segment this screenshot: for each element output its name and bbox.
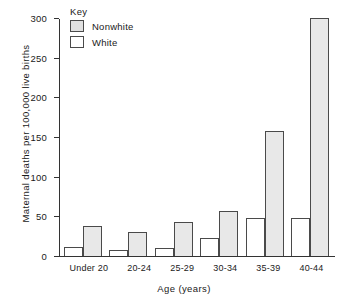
y-tick-label: 150 — [31, 132, 47, 143]
x-axis-tick-labels: Under 2020-2425-2930-3435-3940-44 — [60, 263, 333, 273]
x-tick-label: 25-29 — [170, 263, 194, 273]
bar-white — [246, 218, 265, 256]
y-tick: 200 — [54, 97, 59, 98]
x-tick-label: Under 20 — [70, 263, 109, 273]
x-tick-label: 30-34 — [213, 263, 237, 273]
bar-white — [155, 248, 174, 256]
x-axis-title: Age (years) — [0, 283, 342, 294]
x-tick-label: 20-24 — [127, 263, 151, 273]
y-tick-label: 250 — [31, 52, 47, 63]
y-tick-label: 0 — [42, 251, 47, 262]
y-tick: 300 — [54, 18, 59, 19]
y-tick: 150 — [54, 137, 59, 138]
y-tick-label: 100 — [31, 171, 47, 182]
legend: Key Nonwhite White — [70, 6, 134, 52]
bar-white — [200, 238, 219, 256]
legend-label-nonwhite: Nonwhite — [92, 21, 134, 32]
legend-swatch-white — [70, 36, 84, 48]
y-tick: 100 — [54, 177, 59, 178]
y-tick-label: 200 — [31, 92, 47, 103]
y-tick: 0 — [54, 256, 59, 257]
bar-group — [155, 19, 193, 256]
legend-title: Key — [70, 6, 134, 17]
bar-nonwhite — [310, 18, 329, 256]
legend-item-white: White — [70, 36, 134, 48]
bar-group — [109, 19, 147, 256]
bar-nonwhite — [219, 211, 238, 256]
bar-groups — [60, 19, 333, 256]
bar-group — [291, 19, 329, 256]
x-tick-label: 35-39 — [256, 263, 280, 273]
bar-nonwhite — [174, 222, 193, 256]
y-axis-title: Maternal deaths per 100,000 live births — [20, 14, 31, 254]
bar-white — [64, 247, 83, 256]
y-tick-label: 50 — [36, 211, 47, 222]
x-axis-title-text: Age (years) — [157, 283, 211, 294]
bar-group — [246, 19, 284, 256]
plot-area: 050100150200250300 — [59, 19, 333, 257]
bar-nonwhite — [265, 131, 284, 256]
bar-chart: Maternal deaths per 100,000 live births … — [0, 0, 342, 308]
bar-nonwhite — [83, 226, 102, 256]
x-tick-label: 40-44 — [299, 263, 323, 273]
y-tick-label: 300 — [31, 13, 47, 24]
legend-swatch-nonwhite — [70, 20, 84, 32]
x-axis-line — [59, 256, 335, 257]
bar-white — [109, 250, 128, 256]
y-tick: 50 — [54, 216, 59, 217]
y-tick: 250 — [54, 58, 59, 59]
bar-white — [291, 218, 310, 256]
bar-group — [64, 19, 102, 256]
legend-item-nonwhite: Nonwhite — [70, 20, 134, 32]
legend-label-white: White — [92, 37, 118, 48]
bar-nonwhite — [128, 232, 147, 256]
bar-group — [200, 19, 238, 256]
